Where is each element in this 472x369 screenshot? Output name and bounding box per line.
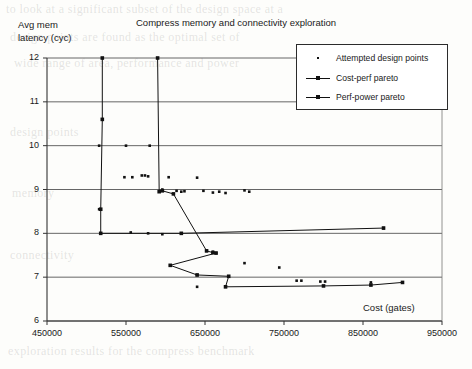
y-tick-label: 9 — [17, 184, 39, 194]
x-tick-label: 950000 — [412, 328, 472, 338]
scatter-point — [212, 191, 215, 194]
scatter-point — [295, 279, 298, 282]
scatter-point — [183, 190, 186, 193]
scatter-point — [169, 264, 172, 267]
legend-dot-marker-icon — [305, 52, 331, 64]
scatter-point — [382, 227, 385, 230]
scatter-point — [401, 281, 404, 284]
scatter-point — [147, 232, 150, 235]
x-tick-label: 750000 — [254, 328, 314, 338]
scatter-point — [224, 192, 227, 195]
scatter-point — [300, 279, 303, 282]
scatter-point — [319, 280, 322, 283]
legend-item-cost-perf-pareto: Cost-perf pareto — [305, 71, 398, 85]
scatter-point — [227, 275, 230, 278]
legend-label: Attempted design points — [336, 53, 428, 63]
scatter-point — [196, 286, 199, 289]
pareto-vertex-marker — [369, 283, 373, 287]
scatter-point — [196, 176, 199, 179]
scatter-point — [224, 286, 227, 289]
x-tick-label: 850000 — [333, 328, 393, 338]
scatter-point — [161, 233, 164, 236]
x-tick-label: 650000 — [175, 328, 235, 338]
scatter-point — [218, 190, 221, 193]
scatter-point — [202, 190, 205, 193]
scatter-point — [215, 252, 218, 255]
scatter-point — [101, 118, 104, 121]
chart-page: to look at a significant subset of the d… — [0, 0, 472, 369]
legend-line-marker-icon — [305, 91, 331, 103]
pareto-vertex-marker — [172, 192, 176, 196]
scatter-point — [148, 144, 151, 147]
scatter-point — [123, 176, 126, 179]
y-tick-label: 11 — [17, 96, 39, 106]
scatter-point — [196, 274, 199, 277]
scatter-point — [167, 176, 170, 179]
pareto-vertex-marker — [156, 56, 160, 60]
scatter-point — [180, 232, 183, 235]
x-tick-label: 550000 — [96, 328, 156, 338]
scatter-point — [324, 280, 327, 283]
y-tick-label: 6 — [17, 315, 39, 325]
pareto-vertex-marker — [322, 284, 326, 288]
x-axis-label: Cost (gates) — [363, 302, 415, 313]
y-tick-label: 8 — [17, 227, 39, 237]
scatter-point — [205, 250, 208, 253]
y-tick-label: 12 — [17, 52, 39, 62]
scatter-point — [141, 174, 144, 177]
chart-legend: Attempted design points Cost-perf pareto… — [296, 44, 448, 110]
pareto-vertex-marker — [99, 232, 103, 236]
y-tick-label: 7 — [17, 271, 39, 281]
scatter-point — [98, 144, 101, 147]
scatter-point — [147, 175, 150, 178]
scatter-point — [98, 208, 101, 211]
legend-line-marker-icon — [305, 72, 331, 84]
scatter-point — [243, 189, 246, 192]
legend-label: Cost-perf pareto — [336, 73, 398, 83]
scatter-point — [180, 190, 183, 193]
scatter-point — [243, 262, 246, 265]
scatter-point — [248, 190, 251, 193]
legend-item-attempted-design-points: Attempted design points — [305, 51, 428, 65]
scatter-point — [125, 144, 128, 147]
scatter-point — [370, 281, 373, 284]
scatter-point — [144, 174, 147, 177]
scatter-point — [131, 176, 134, 179]
scatter-point — [175, 190, 178, 193]
pareto-vertex-marker — [101, 56, 105, 60]
scatter-point — [129, 231, 132, 234]
scatter-point — [278, 266, 281, 269]
legend-item-perf-power-pareto: Perf-power pareto — [305, 90, 405, 104]
pareto-vertex-marker — [157, 190, 161, 194]
y-tick-label: 10 — [17, 140, 39, 150]
x-tick-label: 450000 — [17, 328, 77, 338]
scatter-point — [212, 250, 215, 253]
scatter-point — [161, 188, 164, 191]
legend-label: Perf-power pareto — [336, 92, 405, 102]
